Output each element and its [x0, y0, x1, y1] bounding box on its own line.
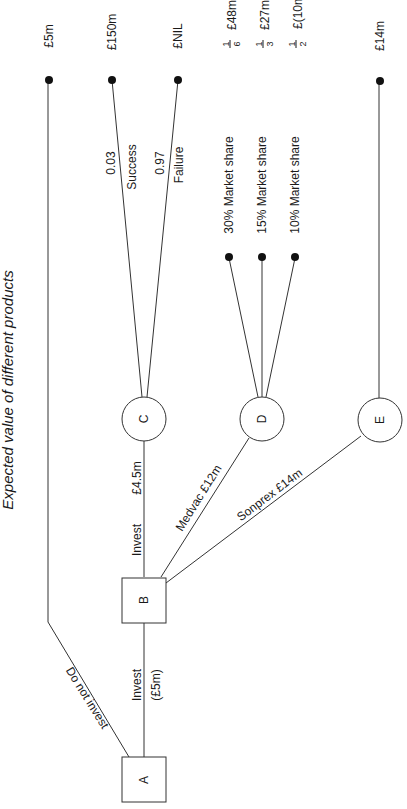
label-c-success: Success	[125, 144, 139, 189]
node-e-label: E	[373, 416, 387, 424]
label-d-10: 10% Market share	[288, 136, 302, 234]
svg-text:£48m: £48m	[225, 0, 239, 30]
outcome-do-not-invest: £5m	[42, 24, 56, 47]
outcome-d-30: 1 6 £48m	[221, 0, 242, 48]
label-b-invest: Invest	[130, 523, 144, 556]
svg-text:2: 2	[298, 41, 308, 46]
label-d-15: 15% Market share	[255, 136, 269, 234]
node-c-label: C	[137, 414, 151, 423]
label-a-invest-cost: (£5m)	[149, 669, 163, 700]
node-b-label: B	[137, 596, 151, 604]
outcome-dot-do-not-invest	[45, 76, 53, 84]
outcome-dot-e	[376, 77, 384, 85]
label-c-failure: Failure	[172, 146, 186, 183]
branch-b-medvac	[161, 438, 249, 577]
label-b-medvac: Medvac £12m	[173, 462, 225, 533]
outcome-failure: £NIL	[171, 23, 185, 49]
outcome-success: £150m	[105, 14, 119, 51]
label-b-sonprex: Sonprex £14m	[234, 466, 305, 524]
outcome-dot-d-10	[291, 253, 299, 261]
decision-tree-diagram: Expected value of different products A B…	[0, 0, 407, 809]
outcome-dot-failure	[174, 76, 182, 84]
node-d-label: D	[255, 414, 269, 423]
outcome-d-10: 1 2 £(10m	[287, 0, 308, 48]
svg-text:6: 6	[232, 41, 242, 46]
branch-d-30	[229, 258, 258, 397]
label-b-invest-value: £4.5m	[130, 461, 144, 494]
label-do-not-invest: Do not invest	[63, 664, 112, 731]
branch-d-10	[266, 258, 295, 397]
svg-text:£(10m: £(10m	[291, 0, 305, 29]
outcome-d-15: 1 3 £27m	[254, 0, 275, 48]
svg-text:3: 3	[265, 41, 275, 46]
label-c-success-probability: 0.03	[104, 151, 118, 175]
diagram-title: Expected value of different products	[0, 270, 16, 510]
branch-do-not-invest	[48, 80, 129, 757]
outcome-dot-d-15	[258, 253, 266, 261]
branch-c-failure	[147, 80, 178, 397]
branch-c-success	[112, 80, 142, 397]
outcome-dot-d-30	[225, 253, 233, 261]
label-d-30: 30% Market share	[222, 136, 236, 234]
label-a-invest: Invest	[130, 668, 144, 701]
outcome-dot-success	[108, 76, 116, 84]
node-a-label: A	[137, 776, 151, 784]
outcome-e: £14m	[373, 21, 387, 51]
label-c-failure-probability: 0.97	[153, 151, 167, 175]
svg-text:£27m: £27m	[258, 0, 272, 30]
